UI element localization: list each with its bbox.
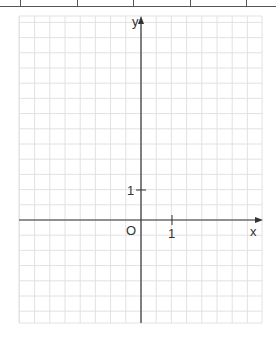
y-tick-label: 1 bbox=[127, 183, 134, 198]
y-axis-arrow-icon bbox=[138, 16, 144, 24]
x-axis-label: x bbox=[250, 224, 257, 239]
x-tick-label: 1 bbox=[168, 226, 175, 241]
y-axis-label: y bbox=[132, 14, 139, 29]
origin-label: O bbox=[126, 223, 136, 238]
coordinate-plane: y x O 1 1 bbox=[0, 0, 276, 337]
